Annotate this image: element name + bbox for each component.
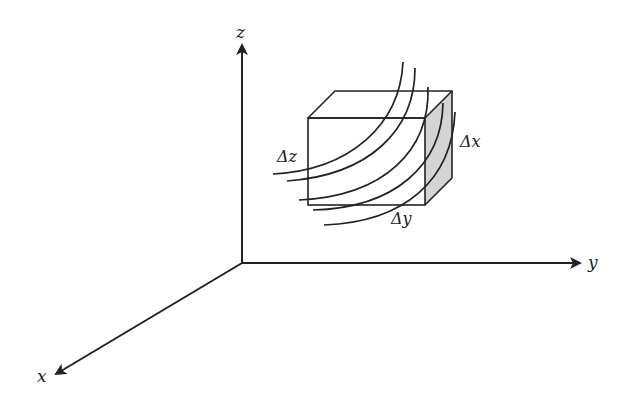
delta-x-label: Δx — [459, 132, 481, 151]
x-axis-label: x — [37, 366, 47, 386]
x-axis — [56, 263, 242, 374]
delta-z-label: Δz — [276, 147, 298, 166]
y-axis-label: y — [587, 252, 598, 272]
front-face — [308, 118, 425, 205]
field-line-2 — [287, 68, 415, 181]
z-axis-label: z — [235, 22, 246, 42]
diagram-canvas: z y x Δz Δx Δy — [0, 0, 629, 401]
field-line-4 — [313, 103, 443, 210]
delta-y-label: Δy — [390, 209, 413, 228]
